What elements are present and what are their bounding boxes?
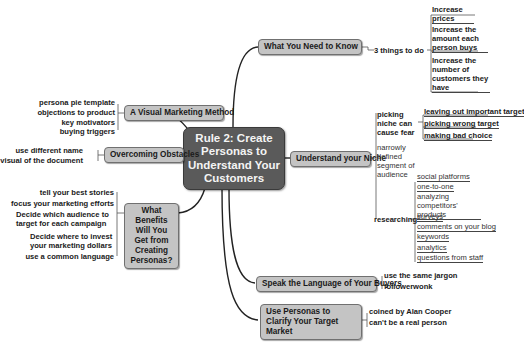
leaf-different-name[interactable]: use different name bbox=[15, 146, 83, 155]
leaf-objections[interactable]: objections to product bbox=[37, 108, 115, 117]
topic-speak-language[interactable]: Speak the Language of Your Buyers bbox=[256, 276, 377, 292]
leaf-focus-marketing[interactable]: focus your marketing efforts bbox=[11, 199, 114, 208]
topic-overcoming-obstacles[interactable]: Overcoming Obstacles bbox=[104, 147, 184, 163]
subtopic-picking-niche[interactable]: picking niche can cause fear bbox=[377, 110, 421, 137]
leaf-increase-prices[interactable]: Increase prices bbox=[432, 5, 474, 24]
leaf-decide-audience[interactable]: Decide which audience to target for each… bbox=[16, 210, 116, 228]
topic-visual-marketing-method[interactable]: A Visual Marketing Method bbox=[124, 105, 224, 121]
leaf-not-real-person[interactable]: can't be a real person bbox=[369, 318, 447, 327]
leaf-followerwonk[interactable]: followerwonk bbox=[384, 282, 433, 291]
leaf-common-language[interactable]: use a common language bbox=[25, 252, 114, 261]
leaf-wrong-target[interactable]: picking wrong target bbox=[424, 119, 499, 129]
leaf-leaving-out[interactable]: leaving out important target bbox=[424, 107, 524, 117]
leaf-analytics[interactable]: analytics bbox=[417, 243, 447, 253]
leaf-alan-cooper[interactable]: coined by Alan Cooper bbox=[369, 307, 451, 316]
leaf-increase-amount[interactable]: Increase the amount each person buys bbox=[432, 25, 488, 53]
leaf-increase-customers[interactable]: Increase the number of customers they ha… bbox=[432, 56, 490, 93]
leaf-decide-invest[interactable]: Decide where to invest your marketing do… bbox=[30, 232, 118, 250]
topic-benefits[interactable]: What Benefits Will You Get from Creating… bbox=[124, 203, 179, 269]
subtopic-3-things[interactable]: 3 things to do bbox=[374, 46, 424, 55]
topic-understand-niche[interactable]: Understand your Niche bbox=[290, 151, 371, 167]
subtopic-researching[interactable]: researching bbox=[374, 215, 417, 224]
leaf-persona-pie[interactable]: persona pie template bbox=[39, 98, 115, 107]
leaf-surveys[interactable]: surveys bbox=[417, 212, 443, 222]
leaf-one-to-one[interactable]: one-to-one bbox=[417, 182, 454, 192]
topic-clarify-target-market[interactable]: Use Personas to Clarify Your Target Mark… bbox=[260, 304, 362, 340]
leaf-keywords[interactable]: keywords bbox=[417, 232, 449, 242]
leaf-questions-staff[interactable]: questions from staff bbox=[417, 253, 483, 263]
leaf-key-motivators[interactable]: key motivators bbox=[61, 118, 115, 127]
leaf-bad-choice[interactable]: making bad choice bbox=[424, 131, 492, 141]
leaf-blog-comments[interactable]: comments on your blog bbox=[417, 222, 496, 232]
leaf-buying-triggers[interactable]: buying triggers bbox=[60, 127, 115, 136]
leaf-best-stories[interactable]: tell your best stories bbox=[40, 188, 114, 197]
leaf-same-jargon[interactable]: use the same jargon bbox=[384, 271, 457, 280]
leaf-social-platforms[interactable]: social platforms bbox=[417, 172, 470, 182]
leaf-visual-document[interactable]: visual of the document bbox=[0, 156, 83, 165]
topic-what-you-need-to-know[interactable]: What You Need to Know bbox=[258, 39, 362, 55]
